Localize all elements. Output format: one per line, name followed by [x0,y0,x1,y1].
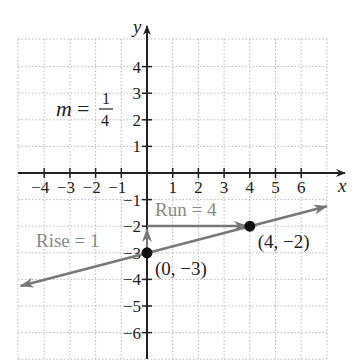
x-tick-label: 1 [168,178,177,197]
y-tick-label: 2 [133,111,142,130]
x-tick-label: −2 [83,178,101,197]
x-tick-label: 5 [271,178,280,197]
x-tick-label: 2 [194,178,203,197]
y-tick-labels: 4321−1−2−3−4−5−6 [123,58,142,343]
slope-equals: = [77,96,89,121]
x-tick-label: 3 [220,178,229,197]
point-label: (4, −2) [258,231,310,253]
data-point [244,221,255,232]
x-tick-label: 6 [297,178,306,197]
point-label: (0, −3) [155,258,207,280]
y-tick-label: −1 [123,191,141,210]
x-tick-label: −4 [31,178,50,197]
data-point [142,247,153,258]
x-tick-label: 4 [246,178,255,197]
y-tick-label: 4 [133,58,142,77]
rise-label: Rise = 1 [36,230,100,251]
run-label: Run = 4 [155,199,217,220]
y-axis-label: y [131,16,142,37]
y-tick-label: 3 [133,84,142,103]
x-tick-label: −3 [57,178,75,197]
y-tick-label: −4 [123,270,142,289]
slope-numerator: 1 [102,90,110,107]
data-points: (0, −3)(4, −2) [142,221,310,280]
slope-chart: x y −4−3−2−1123456 4321−1−2−3−4−5−6 m = … [0,0,360,362]
y-tick-label: −5 [123,297,141,316]
x-axis-label: x [337,175,347,196]
y-tick-label: −2 [123,217,141,236]
y-tick-label: −6 [123,324,141,343]
slope-m: m [56,96,72,121]
slope-denominator: 4 [101,112,109,129]
slope-annotation: m = 1 4 [56,90,113,129]
x-tick-labels: −4−3−2−1123456 [31,178,305,197]
y-tick-label: 1 [133,137,142,156]
